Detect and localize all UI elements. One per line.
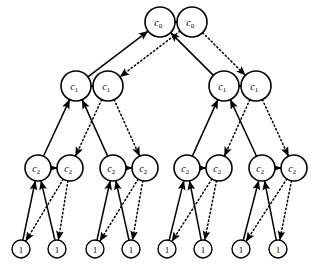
- edge-down-c1-to-c2-3: [262, 100, 288, 157]
- node-leaf-4-label: 1: [165, 245, 170, 255]
- node-c2-0-left: c2: [25, 155, 51, 181]
- node-leaf-5-label: 1: [201, 245, 206, 255]
- node-leaf-4: 1: [158, 240, 176, 258]
- node-leaf-1-label: 1: [55, 245, 60, 255]
- edge-down-c2-to-leaf-1: [58, 181, 68, 240]
- node-c1-0-left: c1: [61, 71, 91, 101]
- edge-down-c2-to-leaf-2: [100, 179, 138, 241]
- node-c1-0-right-label-sub: 1: [107, 86, 110, 93]
- node-c2-1-left-label-sub: 2: [112, 168, 116, 175]
- node-c2-0-left-label-sub: 2: [37, 168, 41, 175]
- node-leaf-0: 1: [12, 240, 30, 258]
- edge-down-c2-to-leaf-3: [133, 181, 143, 240]
- node-leaf-5: 1: [194, 240, 212, 258]
- edge-up-c2-to-c1-1: [82, 100, 107, 156]
- edge-down-c2-to-leaf-5: [205, 181, 217, 240]
- node-c1-0-right: c1: [93, 71, 123, 101]
- node-c1-0-left-label-sub: 1: [75, 86, 78, 93]
- node-c2-3-right: c2: [281, 155, 307, 181]
- edges-layer: [23, 22, 292, 241]
- edge-down-c0-to-c1-0: [120, 31, 180, 77]
- node-c2-0-right: c2: [57, 155, 83, 181]
- edge-up-c1-to-c0-0: [88, 31, 148, 77]
- edge-up-leaf-to-c2-1: [41, 181, 55, 241]
- tree-diagram: c0c0c1c1c1c1c2c2c2c2c2c2c2c211111111: [0, 0, 321, 266]
- node-c1-1-right: c1: [241, 71, 271, 101]
- node-c0-left: c0: [145, 7, 175, 37]
- edge-down-c1-to-c2-0: [75, 100, 101, 157]
- node-c1-1-right-label-sub: 1: [255, 86, 258, 93]
- node-leaf-7: 1: [269, 240, 287, 258]
- diagram-canvas: c0c0c1c1c1c1c2c2c2c2c2c2c2c211111111: [0, 0, 321, 266]
- node-leaf-1: 1: [48, 240, 66, 258]
- edge-up-c2-to-c1-0: [43, 100, 69, 157]
- edge-up-c2-to-c1-3: [230, 100, 256, 157]
- node-leaf-3-label: 1: [129, 245, 134, 255]
- node-c2-2-right-label-sub: 2: [218, 168, 222, 175]
- node-c2-3-left: c2: [249, 155, 275, 181]
- node-c2-2-right: c2: [206, 155, 232, 181]
- node-c1-1-left-label-sub: 1: [223, 86, 226, 93]
- edge-up-c1-to-c0-1: [171, 33, 214, 76]
- nodes-layer: c0c0c1c1c1c1c2c2c2c2c2c2c2c211111111: [12, 7, 307, 258]
- node-leaf-7-label: 1: [276, 245, 281, 255]
- node-leaf-3: 1: [122, 240, 140, 258]
- node-c0-left-label-sub: 0: [159, 22, 163, 29]
- edge-down-c2-to-leaf-7: [280, 181, 292, 240]
- edge-down-c1-to-c2-1: [114, 100, 139, 156]
- node-c2-3-left-label-sub: 2: [261, 168, 265, 175]
- edge-up-leaf-to-c2-2: [97, 181, 110, 241]
- edge-up-leaf-to-c2-4: [169, 181, 184, 241]
- node-leaf-2: 1: [86, 240, 104, 258]
- node-leaf-6-label: 1: [239, 245, 244, 255]
- edge-up-leaf-to-c2-0: [23, 181, 35, 240]
- edge-down-c1-to-c2-2: [224, 100, 249, 156]
- node-c2-2-left: c2: [174, 155, 200, 181]
- node-c2-0-right-label-sub: 2: [69, 168, 73, 175]
- node-c0-right: c0: [177, 7, 207, 37]
- node-leaf-6: 1: [232, 240, 250, 258]
- edge-up-leaf-to-c2-6: [243, 181, 258, 241]
- edge-up-c2-to-c1-2: [192, 100, 217, 156]
- node-c2-1-right: c2: [132, 155, 158, 181]
- node-leaf-2-label: 1: [93, 245, 98, 255]
- edge-down-c2-to-leaf-0: [26, 179, 64, 241]
- node-c2-2-left-label-sub: 2: [186, 168, 190, 175]
- node-c2-1-right-label-sub: 2: [144, 168, 148, 175]
- node-leaf-0-label: 1: [19, 245, 24, 255]
- edge-up-leaf-to-c2-3: [116, 181, 129, 241]
- node-c0-right-label-sub: 0: [191, 22, 195, 29]
- node-c2-1-left: c2: [100, 155, 126, 181]
- node-c1-1-left: c1: [209, 71, 239, 101]
- node-c2-3-right-label-sub: 2: [293, 168, 297, 175]
- edge-down-c0-to-c1-1: [203, 33, 246, 76]
